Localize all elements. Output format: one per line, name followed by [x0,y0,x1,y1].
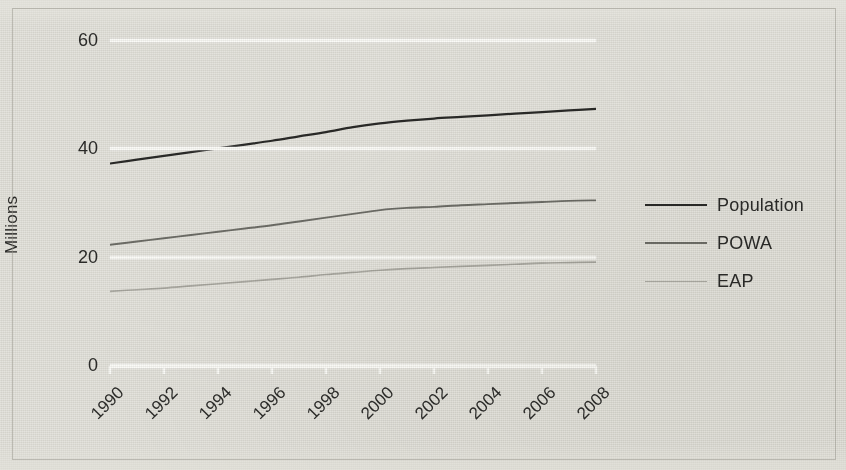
legend-swatch-eap [645,281,707,282]
x-tick-label: 2002 [404,383,452,431]
line-chart: Millions 0204060 19901992199419961998200… [0,0,846,470]
x-tick-label: 1990 [80,383,128,431]
x-tick-label: 2000 [350,383,398,431]
chart-legend: PopulationPOWAEAP [645,186,845,300]
x-tick-label: 2004 [458,383,506,431]
x-tick-label: 1994 [188,383,236,431]
legend-label: POWA [717,233,772,254]
legend-item-population[interactable]: Population [645,186,845,224]
x-tick-label: 1992 [134,383,182,431]
legend-swatch-powa [645,242,707,244]
x-tick-label: 1998 [296,383,344,431]
legend-item-eap[interactable]: EAP [645,262,845,300]
x-tick-label: 1996 [242,383,290,431]
x-tick-label: 2006 [512,383,560,431]
legend-swatch-population [645,204,707,206]
scanned-chart-page: Millions 0204060 19901992199419961998200… [0,0,846,470]
legend-label: Population [717,195,804,216]
legend-item-powa[interactable]: POWA [645,224,845,262]
legend-label: EAP [717,271,754,292]
x-tick-label: 2008 [566,383,614,431]
